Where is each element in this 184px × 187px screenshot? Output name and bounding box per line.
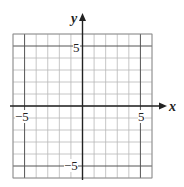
x-axis-arrow-icon [159, 103, 167, 110]
coordinate-grid [0, 0, 184, 187]
y-tick-5: 5 [73, 41, 80, 54]
y-axis-arrow-icon [79, 13, 86, 21]
x-tick-neg5: −5 [15, 110, 29, 123]
x-tick-5: 5 [138, 110, 145, 123]
y-axis-label: y [71, 12, 77, 26]
x-axis-label: x [169, 100, 176, 114]
y-tick-neg5: −5 [64, 159, 78, 172]
